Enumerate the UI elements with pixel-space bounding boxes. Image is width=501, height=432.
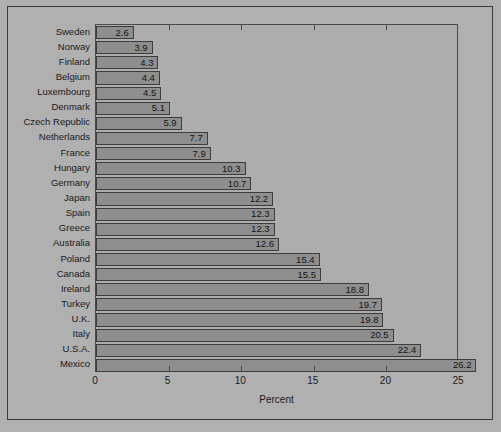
bar-value-label: 26.2 bbox=[453, 361, 472, 371]
bar-series: 2.63.94.34.44.55.15.97.77.910.310.712.21… bbox=[96, 25, 457, 371]
x-tick-bottom bbox=[386, 366, 387, 371]
category-label-row: Czech Republic bbox=[0, 115, 90, 130]
bar[interactable]: 10.7 bbox=[96, 177, 251, 190]
category-label-row: Japan bbox=[0, 190, 90, 205]
bar-value-label: 5.1 bbox=[152, 103, 165, 113]
category-axis-labels: SwedenNorwayFinlandBelgiumLuxembourgDenm… bbox=[0, 24, 90, 372]
bar-value-label: 15.4 bbox=[296, 255, 315, 265]
category-label-row: Greece bbox=[0, 221, 90, 236]
bar-value-label: 5.9 bbox=[163, 119, 176, 129]
category-label: Czech Republic bbox=[23, 118, 90, 128]
bar-row: 15.5 bbox=[96, 267, 457, 282]
bar-row: 12.3 bbox=[96, 207, 457, 222]
category-label-row: Norway bbox=[0, 39, 90, 54]
category-label-row: Hungary bbox=[0, 160, 90, 175]
bar[interactable]: 4.3 bbox=[96, 56, 158, 69]
bar-value-label: 12.3 bbox=[251, 209, 270, 219]
category-label: Denmark bbox=[51, 102, 90, 112]
bar-row: 3.9 bbox=[96, 40, 457, 55]
bar-value-label: 18.8 bbox=[345, 285, 364, 295]
bar[interactable]: 3.9 bbox=[96, 41, 153, 54]
bar-value-label: 7.9 bbox=[192, 149, 205, 159]
bar[interactable]: 19.7 bbox=[96, 298, 382, 311]
bar[interactable]: 4.5 bbox=[96, 87, 161, 100]
bar[interactable]: 5.1 bbox=[96, 102, 170, 115]
category-label: U.S.A. bbox=[63, 345, 90, 355]
bar-value-label: 15.5 bbox=[298, 270, 317, 280]
bar[interactable]: 12.3 bbox=[96, 223, 275, 236]
bar[interactable]: 18.8 bbox=[96, 283, 369, 296]
x-tick-top bbox=[169, 25, 170, 30]
bar-value-label: 3.9 bbox=[134, 43, 147, 53]
bar[interactable]: 7.7 bbox=[96, 132, 208, 145]
category-label-row: Belgium bbox=[0, 69, 90, 84]
category-label-row: France bbox=[0, 145, 90, 160]
category-label-row: U.S.A. bbox=[0, 342, 90, 357]
category-label-row: Italy bbox=[0, 327, 90, 342]
category-label-row: Australia bbox=[0, 236, 90, 251]
bar-row: 18.8 bbox=[96, 282, 457, 297]
bar[interactable]: 12.2 bbox=[96, 192, 273, 205]
bar[interactable]: 26.2 bbox=[96, 359, 476, 372]
chart-figure: SwedenNorwayFinlandBelgiumLuxembourgDenm… bbox=[0, 0, 501, 432]
x-tick-bottom bbox=[241, 366, 242, 371]
bar-row: 7.9 bbox=[96, 146, 457, 161]
bar-value-label: 12.3 bbox=[251, 225, 270, 235]
x-tick-label: 15 bbox=[307, 376, 318, 386]
bar[interactable]: 15.4 bbox=[96, 253, 320, 266]
x-axis-title: Percent bbox=[95, 394, 458, 405]
bar-value-label: 4.5 bbox=[143, 88, 156, 98]
bar[interactable]: 19.8 bbox=[96, 313, 383, 326]
bar-row: 2.6 bbox=[96, 25, 457, 40]
category-label-row: Spain bbox=[0, 206, 90, 221]
bar-row: 10.3 bbox=[96, 161, 457, 176]
category-label: Turkey bbox=[61, 299, 90, 309]
x-tick-top bbox=[314, 25, 315, 30]
bar-value-label: 20.5 bbox=[370, 330, 389, 340]
bar-row: 19.7 bbox=[96, 297, 457, 312]
category-label-row: U.K. bbox=[0, 311, 90, 326]
category-label: Belgium bbox=[56, 72, 90, 82]
category-label: Australia bbox=[53, 239, 90, 249]
bar-value-label: 19.8 bbox=[360, 315, 379, 325]
bar-row: 5.1 bbox=[96, 101, 457, 116]
category-label: U.K. bbox=[72, 314, 90, 324]
bar[interactable]: 5.9 bbox=[96, 117, 182, 130]
bar[interactable]: 20.5 bbox=[96, 329, 394, 342]
category-label-row: Mexico bbox=[0, 357, 90, 372]
bar[interactable]: 12.3 bbox=[96, 208, 275, 221]
x-tick-bottom bbox=[314, 366, 315, 371]
bar-row: 15.4 bbox=[96, 252, 457, 267]
bar[interactable]: 10.3 bbox=[96, 162, 246, 175]
x-tick-label: 0 bbox=[92, 376, 98, 386]
bar-value-label: 10.7 bbox=[228, 179, 247, 189]
category-label: Sweden bbox=[56, 27, 90, 37]
x-axis-tick-labels: 0510152025 bbox=[95, 376, 458, 390]
bar-value-label: 4.4 bbox=[142, 73, 155, 83]
plot-area: 2.63.94.34.44.55.15.97.77.910.310.712.21… bbox=[95, 24, 458, 372]
bar-value-label: 10.3 bbox=[222, 164, 241, 174]
category-label-row: Netherlands bbox=[0, 130, 90, 145]
bar-value-label: 12.2 bbox=[250, 194, 269, 204]
bar[interactable]: 22.4 bbox=[96, 344, 421, 357]
bar[interactable]: 12.6 bbox=[96, 238, 279, 251]
x-tick-top bbox=[241, 25, 242, 30]
bar[interactable]: 2.6 bbox=[96, 26, 134, 39]
bar[interactable]: 4.4 bbox=[96, 71, 160, 84]
category-label: France bbox=[60, 148, 90, 158]
category-label-row: Finland bbox=[0, 54, 90, 69]
bar-value-label: 19.7 bbox=[359, 300, 378, 310]
bar-value-label: 2.6 bbox=[116, 28, 129, 38]
bar-row: 4.5 bbox=[96, 86, 457, 101]
bar-row: 12.2 bbox=[96, 191, 457, 206]
bar[interactable]: 15.5 bbox=[96, 268, 321, 281]
category-label-row: Germany bbox=[0, 175, 90, 190]
bar-row: 7.7 bbox=[96, 131, 457, 146]
bar-row: 26.2 bbox=[96, 358, 457, 373]
category-label: Mexico bbox=[60, 360, 90, 370]
bar-row: 20.5 bbox=[96, 328, 457, 343]
bar-row: 10.7 bbox=[96, 176, 457, 191]
category-label: Italy bbox=[73, 329, 90, 339]
bar[interactable]: 7.9 bbox=[96, 147, 211, 160]
bar-value-label: 7.7 bbox=[190, 134, 203, 144]
